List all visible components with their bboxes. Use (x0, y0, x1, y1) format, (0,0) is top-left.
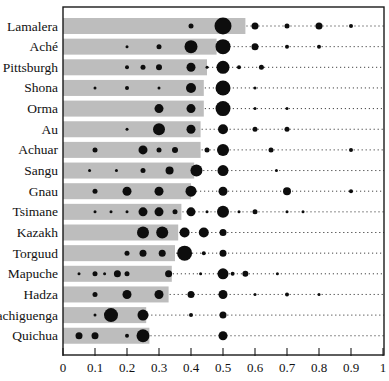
row-label-Sangu: Sangu (24, 163, 58, 178)
bubble-Gnau-0.3 (155, 187, 164, 196)
row-label-Shona: Shona (24, 80, 58, 95)
x-tick-label-0: 0 (60, 360, 67, 375)
bubble-Mapuche-0.2 (125, 271, 130, 276)
bubble-Tsimane-0.15 (110, 210, 113, 213)
bubble-Achuar-0.25 (139, 145, 148, 154)
bubble-Kazakh-0.5 (220, 229, 227, 236)
bubble-Tsimane-0.35 (173, 209, 178, 214)
bubble-Kazakh-0.38 (180, 228, 190, 238)
bubble-Lamalera-0.9 (349, 24, 353, 28)
bubble-Pittsburgh-0.5 (217, 61, 230, 74)
bubble-Torguud-0.38 (177, 246, 192, 261)
bubble-Torguud-0.5 (220, 250, 227, 257)
ultimatum-offers-bubble-chart: LamaleraAchéPittsburghShonaOrmaAuAchuarS… (0, 0, 389, 381)
row-label-Tsimane: Tsimane (12, 204, 58, 219)
bubble-Torguud-0.2 (125, 251, 130, 256)
mean-bar-Au (63, 121, 201, 137)
bubble-Torguud-0.25 (140, 250, 147, 257)
row-label-Mapuche: Mapuche (8, 266, 58, 281)
bubble-Mapuche-0.53 (231, 272, 235, 276)
mean-bar-Shona (63, 80, 204, 96)
bubble-Achuar-0.1 (93, 147, 98, 152)
x-tick-label-0.2: 0.2 (119, 360, 135, 375)
x-tick-label-0.9: 0.9 (343, 360, 359, 375)
bubble-Orma-0.6 (254, 107, 257, 110)
bubble-Au-0.6 (253, 127, 258, 132)
bubble-Machiguenga-0.5 (220, 312, 227, 319)
bubble-Machiguenga-0.4 (189, 313, 193, 317)
x-tick-label-0.1: 0.1 (87, 360, 103, 375)
bubble-Mapuche-0.17 (114, 270, 121, 277)
row-label-Gnau: Gnau (29, 184, 58, 199)
bubble-Tsimane-0.6 (253, 209, 258, 214)
bubble-Mapuche-0.67 (276, 272, 279, 275)
bubble-Hadza-0.7 (285, 292, 289, 296)
mean-bar-Torguud (63, 245, 175, 261)
bubble-Pittsburgh-0.3 (156, 64, 162, 70)
row-label-Lamalera: Lamalera (7, 19, 58, 34)
mean-bar-Achuar (63, 142, 201, 158)
bubble-Orma-0.7 (286, 107, 289, 110)
bubble-Aché-0.3 (157, 44, 162, 49)
bubble-Pittsburgh-0.62 (259, 65, 264, 70)
bubble-Shona-0.5 (216, 80, 231, 95)
bubble-Lamalera-0.6 (252, 23, 259, 30)
bubble-Quichua-0.1 (92, 332, 99, 339)
row-label-Machiguenga: Machiguenga (0, 308, 58, 323)
bubble-Sangu-0.417 (190, 165, 202, 177)
bubble-Lamalera-0.8 (316, 23, 323, 30)
bubble-Kazakh-0.44 (199, 228, 209, 238)
mean-bar-Pittsburgh (63, 59, 207, 75)
bubble-Orma-0.3 (155, 104, 164, 113)
x-tick-label-1: 1 (380, 360, 387, 375)
bubble-Hadza-0.1 (93, 292, 98, 297)
x-tick-label-0.8: 0.8 (311, 360, 327, 375)
bubble-Quichua-0.2 (125, 334, 129, 338)
bubble-Lamalera-0.5 (215, 18, 232, 35)
bubble-Machiguenga-0.1 (94, 314, 97, 317)
bubble-Au-0.7 (285, 127, 290, 132)
bubble-Pittsburgh-0.55 (237, 65, 241, 69)
bubble-Shona-0.3 (158, 86, 161, 89)
bubble-Orma-0.4 (187, 104, 196, 113)
bubble-Sangu-0.5 (218, 165, 229, 176)
bubble-Tsimane-0.75 (302, 210, 305, 213)
bubble-Shona-0.6 (254, 86, 257, 89)
bubble-Aché-0.2 (126, 45, 129, 48)
bubble-Aché-0.6 (252, 43, 259, 50)
bubble-Shona-0.2 (125, 86, 129, 90)
bubble-Hadza-0.8 (318, 293, 321, 296)
bubble-Lamalera-0.7 (285, 24, 290, 29)
bubble-Hadza-0.4 (188, 291, 195, 298)
bubble-Torguud-0.31 (159, 250, 166, 257)
row-label-Pittsburgh: Pittsburgh (3, 60, 59, 75)
row-label-Orma: Orma (27, 101, 58, 116)
bubble-Au-0.5 (218, 124, 228, 134)
bubble-Tsimane-0.7 (286, 210, 289, 213)
chart-canvas: LamaleraAchéPittsburghShonaOrmaAuAchuarS… (0, 0, 389, 381)
bubble-Hadza-0.5 (219, 290, 228, 299)
bubble-Aché-0.5 (216, 39, 231, 54)
bubble-Tsimane-0.5 (217, 206, 229, 218)
bubble-Pittsburgh-0.4 (187, 63, 196, 72)
bubble-Mapuche-0.5 (218, 268, 229, 279)
bubble-Quichua-0.25 (137, 329, 150, 342)
row-label-Torguud: Torguud (13, 246, 59, 261)
bubble-Aché-0.7 (285, 45, 289, 49)
x-tick-label-0.4: 0.4 (183, 360, 200, 375)
bubble-Shona-0.1 (94, 86, 97, 89)
mean-bar-Orma (63, 101, 204, 117)
row-label-Hadza: Hadza (24, 287, 58, 302)
row-label-Achuar: Achuar (18, 142, 58, 157)
bubble-Achuar-0.5 (217, 144, 229, 156)
bubble-Tsimane-0.1 (94, 210, 97, 213)
bubble-Tsimane-0.55 (238, 210, 241, 213)
bubble-Sangu-0.667 (275, 169, 278, 172)
bubble-Tsimane-0.4 (187, 207, 196, 216)
x-tick-label-0.6: 0.6 (247, 360, 264, 375)
bubble-Lamalera-0.4 (189, 24, 194, 29)
bubble-Hadza-0.6 (254, 293, 257, 296)
bubble-Mapuche-0.57 (242, 271, 248, 277)
bubble-Mapuche-0.05 (78, 272, 81, 275)
bubble-Gnau-0.2 (123, 187, 132, 196)
